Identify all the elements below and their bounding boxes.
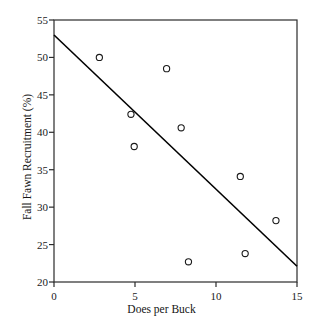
regression-line [54,35,297,266]
data-point-marker [128,111,134,117]
y-tick-label: 55 [18,15,48,26]
x-tick-label: 0 [51,291,57,302]
data-point-marker [96,54,102,60]
x-tick-label: 15 [292,291,303,302]
data-point-marker [185,259,191,265]
y-axis-title: Fall Fawn Recruitment (%) [21,57,33,257]
data-point-marker [242,250,248,256]
data-point-marker [237,173,243,179]
data-point-marker [178,125,184,131]
x-tick-label: 5 [132,291,138,302]
y-tick-label: 20 [18,277,48,288]
x-axis-ticks [54,282,297,287]
data-point-marker [163,66,169,72]
x-tick-label: 10 [211,291,222,302]
data-points [96,54,279,265]
trend-line [54,35,297,266]
plot-canvas [0,0,323,330]
x-axis-title: Does per Buck [0,303,323,315]
data-point-marker [273,218,279,224]
y-axis-ticks [49,20,54,282]
data-point-marker [131,143,137,149]
scatter-chart-figure: 2025303540455055 051015 Does per Buck Fa… [0,0,323,330]
